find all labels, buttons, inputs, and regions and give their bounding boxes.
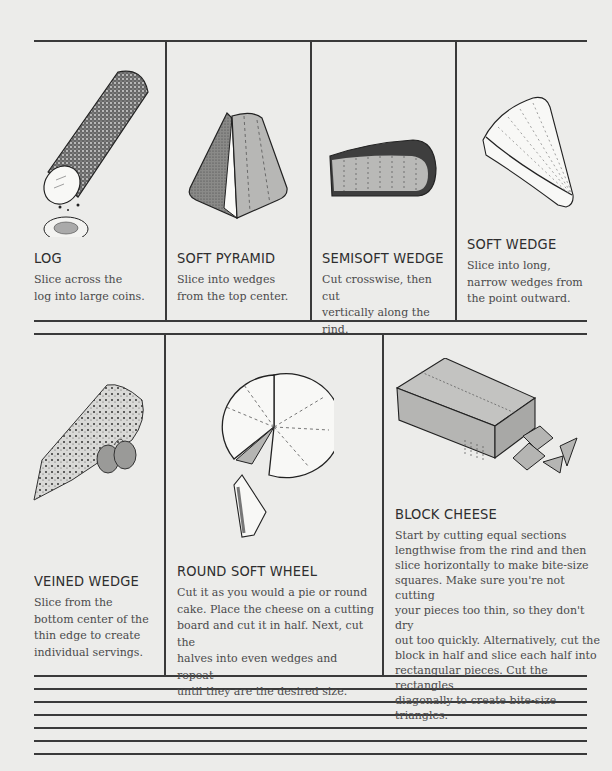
row2-divider-2	[382, 333, 384, 676]
card-title: SOFT WEDGE	[467, 236, 575, 252]
card-description: Start by cutting equal sectionslengthwis…	[395, 528, 600, 723]
card-soft-wedge: SOFT WEDGE Slice into long,narrow wedges…	[467, 236, 587, 308]
row1-divider-1	[165, 40, 167, 321]
card-title: SOFT PYRAMID	[177, 250, 292, 266]
card-title: ROUND SOFT WHEEL	[177, 563, 357, 579]
card-round-soft-wheel: ROUND SOFT WHEEL Cut it as you would a p…	[177, 563, 377, 701]
card-soft-pyramid: SOFT PYRAMID Slice into wedgesfrom the t…	[177, 250, 305, 305]
veined-wedge-icon	[32, 380, 147, 505]
card-title: BLOCK CHEESE	[395, 506, 580, 522]
card-title: LOG	[34, 250, 149, 266]
card-log: LOG Slice across thelog into large coins…	[34, 250, 162, 305]
card-title: SEMISOFT WEDGE	[322, 250, 439, 266]
card-title: VEINED WEDGE	[34, 573, 147, 589]
notes-line[interactable]	[34, 727, 587, 729]
soft-wedge-icon	[478, 95, 578, 210]
row1-divider-3	[455, 40, 457, 321]
card-description: Slice into wedgesfrom the top center.	[177, 272, 305, 305]
card-block-cheese: BLOCK CHEESE Start by cutting equal sect…	[395, 506, 600, 723]
row2-top-rule	[34, 333, 587, 335]
pyramid-cheese-icon	[182, 108, 292, 223]
row1-divider-2	[310, 40, 312, 321]
card-description: Slice across thelog into large coins.	[34, 272, 162, 305]
row2-divider-1	[164, 333, 166, 676]
card-semisoft-wedge: SEMISOFT WEDGE Cut crosswise, then cutve…	[322, 250, 452, 338]
round-wheel-icon	[214, 367, 334, 542]
semisoft-wedge-icon	[328, 138, 438, 200]
card-veined-wedge: VEINED WEDGE Slice from thebottom center…	[34, 573, 159, 661]
log-cheese-icon	[38, 62, 153, 237]
notes-line[interactable]	[34, 753, 587, 755]
card-description: Slice into long,narrow wedges fromthe po…	[467, 258, 587, 308]
block-cheese-icon	[395, 358, 580, 488]
card-description: Cut it as you would a pie or roundcake. …	[177, 585, 377, 701]
card-description: Slice from thebottom center of thethin e…	[34, 595, 159, 661]
notes-line[interactable]	[34, 740, 587, 742]
card-description: Cut crosswise, then cutvertically along …	[322, 272, 452, 338]
